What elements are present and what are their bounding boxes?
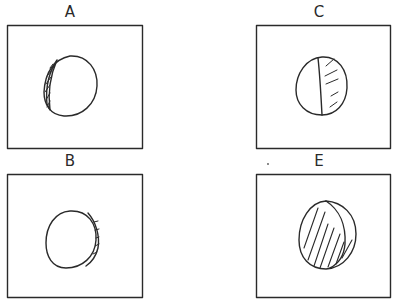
panel-c-frame — [257, 26, 391, 149]
panel-b-label: B — [50, 153, 90, 169]
panel-e-label: E — [299, 153, 339, 169]
panel-b-frame — [8, 175, 143, 298]
panel-c-circle — [296, 57, 347, 115]
panel-c-label: C — [299, 4, 339, 20]
panel-a-label: A — [50, 4, 90, 20]
panel-b-circle — [46, 211, 99, 268]
stray-dot — [267, 163, 269, 165]
panel-a-frame — [8, 26, 143, 149]
panel-e-circle — [299, 201, 356, 269]
panel-a-circle — [44, 56, 97, 116]
